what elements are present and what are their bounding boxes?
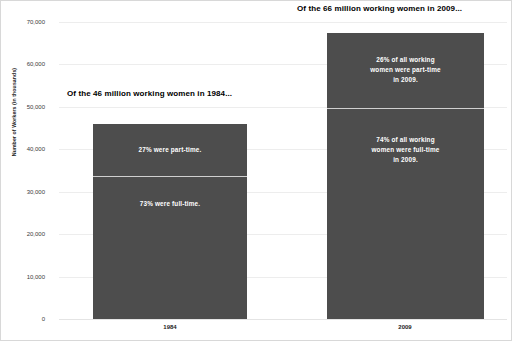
ytick-label-60000: 60,000 bbox=[0, 61, 45, 67]
callout-heading-2009: Of the 66 million working women in 2009.… bbox=[297, 4, 462, 13]
bar-2009-part-time-label: 26% of all working women were part-time … bbox=[366, 55, 444, 85]
bar-1984-part-time-label: 27% were part-time. bbox=[135, 145, 206, 155]
plot-area: 70,000 60,000 50,000 40,000 30,000 20,00… bbox=[59, 22, 507, 319]
bar-1984-segment-full-time[interactable]: 73% were full-time. bbox=[93, 177, 247, 320]
chart-container: Number of Workers (in thousands) 70,000 … bbox=[0, 0, 512, 341]
xtick-label-2009: 2009 bbox=[345, 324, 465, 330]
callout-heading-1984: Of the 46 million working women in 1984.… bbox=[67, 89, 232, 98]
gridline-0: 0 bbox=[59, 319, 507, 320]
ytick-label-50000: 50,000 bbox=[0, 103, 45, 109]
ytick-label-40000: 40,000 bbox=[0, 146, 45, 152]
ytick-label-30000: 30,000 bbox=[0, 188, 45, 194]
bar-1984-segment-part-time[interactable]: 27% were part-time. bbox=[93, 124, 247, 177]
bar-2009[interactable]: 26% of all working women were part-time … bbox=[327, 33, 484, 319]
gridline-70000: 70,000 bbox=[59, 22, 507, 23]
ytick-label-10000: 10,000 bbox=[0, 273, 45, 279]
bar-1984[interactable]: 27% were part-time. 73% were full-time. bbox=[93, 124, 247, 319]
ytick-label-0: 0 bbox=[0, 316, 45, 322]
xtick-label-1984: 1984 bbox=[110, 324, 230, 330]
ytick-label-20000: 20,000 bbox=[0, 231, 45, 237]
bar-2009-segment-full-time[interactable]: 74% of all working women were full-time … bbox=[327, 109, 484, 319]
ytick-label-70000: 70,000 bbox=[0, 19, 45, 25]
bar-2009-full-time-label: 74% of all working women were full-time … bbox=[327, 135, 484, 165]
bar-1984-full-time-label: 73% were full-time. bbox=[93, 199, 247, 209]
bar-2009-segment-part-time[interactable]: 26% of all working women were part-time … bbox=[327, 33, 484, 110]
